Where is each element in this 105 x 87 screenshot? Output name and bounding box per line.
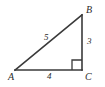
vertex-label-b: B [86,5,92,15]
side-length-label-hypotenuse: 5 [44,33,49,42]
side-length-label-bc: 3 [87,37,92,46]
vertex-label-a: A [8,72,14,82]
vertex-label-c: C [85,72,92,82]
side-length-label-ac: 4 [47,72,52,81]
triangle-figure: A B C 5 3 4 [0,0,105,87]
right-angle-marker-icon [72,60,82,70]
